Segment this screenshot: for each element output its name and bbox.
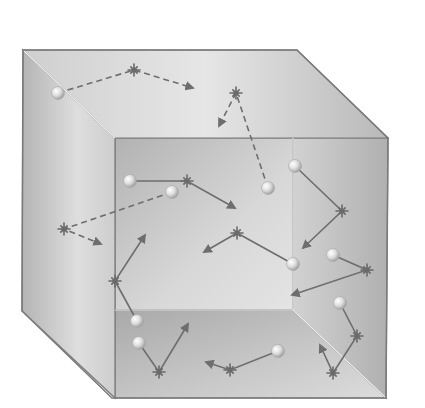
molecule-ball — [287, 258, 300, 271]
molecule-ball — [131, 315, 144, 328]
molecule-ball — [124, 175, 137, 188]
molecule-ball — [334, 297, 347, 310]
molecule-ball — [52, 87, 65, 100]
molecule-ball — [262, 182, 275, 195]
molecule-ball — [289, 160, 302, 173]
back-wall — [115, 138, 293, 310]
gas-box-diagram — [0, 0, 425, 408]
molecule-ball — [133, 337, 146, 350]
molecule-ball — [272, 345, 285, 358]
molecule-ball — [166, 186, 179, 199]
gas-box-illustration — [0, 0, 425, 408]
molecule-ball — [327, 249, 340, 262]
